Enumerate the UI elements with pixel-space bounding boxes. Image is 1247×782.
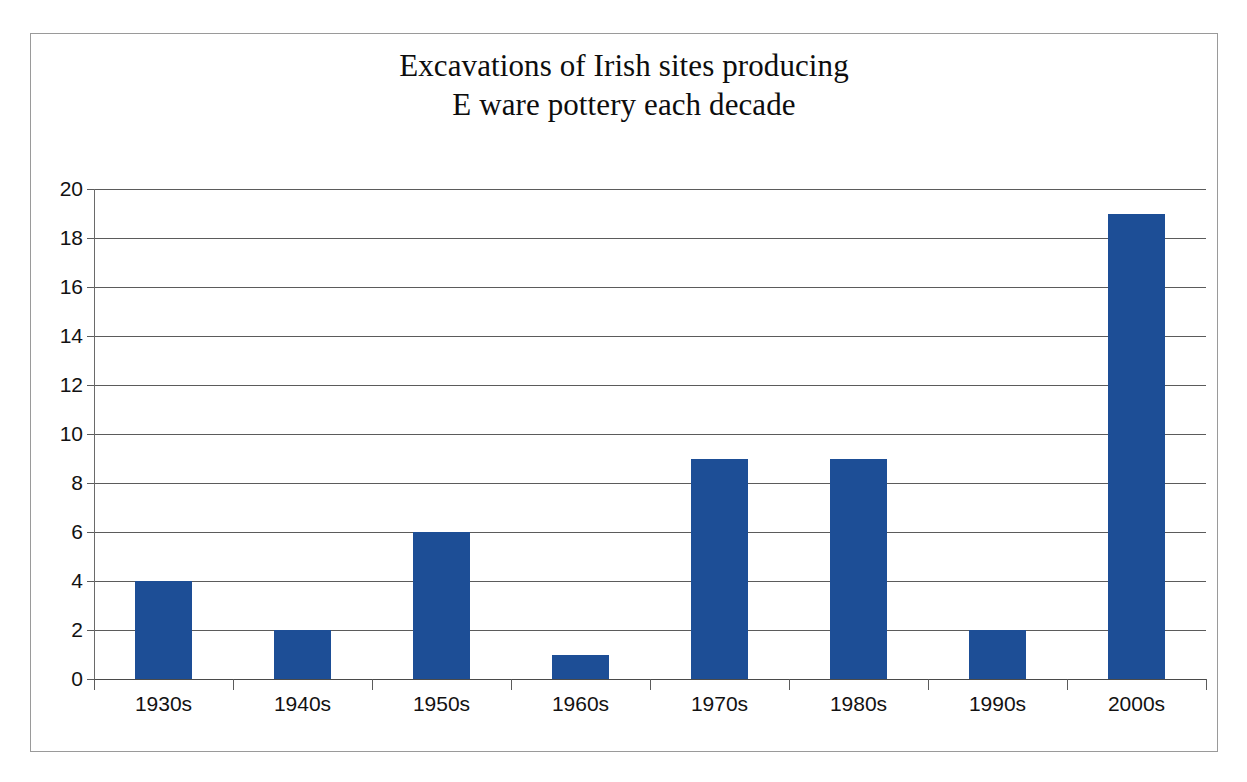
y-axis-label-14: 14 — [60, 324, 83, 348]
y-axis-label-18: 18 — [60, 226, 83, 250]
y-axis-label-8: 8 — [71, 471, 83, 495]
y-tick-6 — [87, 532, 94, 533]
x-axis-labels: 1930s1940s1950s1960s1970s1980s1990s2000s — [94, 692, 1206, 732]
plot-area: 02468101214161820 1930s1940s1950s1960s19… — [94, 189, 1206, 679]
x-tick-0 — [94, 679, 95, 690]
y-axis-label-2: 2 — [71, 618, 83, 642]
y-tick-4 — [87, 581, 94, 582]
y-axis-label-10: 10 — [60, 422, 83, 446]
chart-frame: Excavations of Irish sites producing E w… — [30, 33, 1218, 752]
x-axis-label-1940s: 1940s — [274, 692, 331, 716]
y-axis-label-16: 16 — [60, 275, 83, 299]
y-tick-12 — [87, 385, 94, 386]
chart-title: Excavations of Irish sites producing E w… — [31, 46, 1217, 124]
x-axis-ticks — [94, 679, 1206, 693]
bar-1970s — [691, 459, 748, 680]
y-tick-18 — [87, 238, 94, 239]
y-tick-2 — [87, 630, 94, 631]
x-axis-label-1970s: 1970s — [691, 692, 748, 716]
x-tick-5 — [789, 679, 790, 690]
bar-2000s — [1108, 214, 1165, 680]
bar-1960s — [552, 655, 609, 680]
x-tick-2 — [372, 679, 373, 690]
bar-1980s — [830, 459, 887, 680]
x-axis-label-1990s: 1990s — [969, 692, 1026, 716]
x-axis-label-1960s: 1960s — [552, 692, 609, 716]
bar-1940s — [274, 630, 331, 679]
y-tick-14 — [87, 336, 94, 337]
y-tick-10 — [87, 434, 94, 435]
x-axis-label-2000s: 2000s — [1108, 692, 1165, 716]
bar-1990s — [969, 630, 1026, 679]
chart-title-line-2: E ware pottery each decade — [31, 85, 1217, 124]
y-axis-label-6: 6 — [71, 520, 83, 544]
x-axis-label-1950s: 1950s — [413, 692, 470, 716]
y-axis-label-12: 12 — [60, 373, 83, 397]
y-tick-8 — [87, 483, 94, 484]
x-tick-3 — [511, 679, 512, 690]
x-axis-label-1980s: 1980s — [830, 692, 887, 716]
y-tick-16 — [87, 287, 94, 288]
bar-1950s — [413, 532, 470, 679]
x-tick-6 — [928, 679, 929, 690]
x-tick-7 — [1067, 679, 1068, 690]
chart-title-line-1: Excavations of Irish sites producing — [31, 46, 1217, 85]
x-axis-label-1930s: 1930s — [135, 692, 192, 716]
y-tick-0 — [87, 679, 94, 680]
chart-page: Excavations of Irish sites producing E w… — [0, 0, 1247, 782]
bars-series — [94, 189, 1206, 679]
y-tick-20 — [87, 189, 94, 190]
y-axis-label-20: 20 — [60, 177, 83, 201]
x-tick-8 — [1206, 679, 1207, 690]
y-axis-label-4: 4 — [71, 569, 83, 593]
x-tick-4 — [650, 679, 651, 690]
x-tick-1 — [233, 679, 234, 690]
y-axis-label-0: 0 — [71, 667, 83, 691]
bar-1930s — [135, 581, 192, 679]
